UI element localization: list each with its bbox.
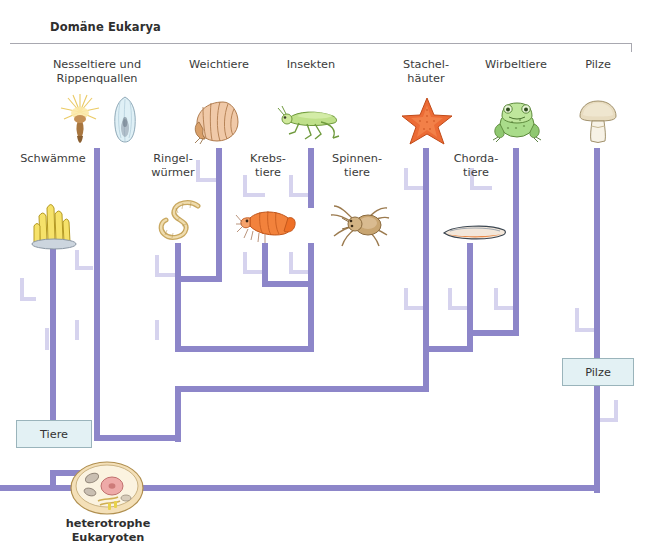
stem-deuterostomia bbox=[423, 346, 429, 388]
branch-nesseltiere bbox=[94, 148, 100, 441]
branch-shadow bbox=[45, 328, 49, 350]
comb-jelly-icon bbox=[112, 96, 138, 144]
lancelet-icon bbox=[442, 222, 508, 244]
stem-lophotrochozoa bbox=[175, 276, 181, 348]
join-stachel-chordata bbox=[423, 346, 473, 352]
join-ringel-weich bbox=[175, 276, 222, 282]
taxon-label-spinnentiere: Spinnen- tiere bbox=[312, 152, 402, 180]
branch-shadow bbox=[75, 266, 93, 270]
frog-icon bbox=[492, 98, 542, 142]
jellyfish-icon bbox=[58, 92, 102, 144]
starfish-icon bbox=[400, 96, 454, 146]
sponge-icon bbox=[28, 198, 80, 250]
taxon-label-pilze: Pilze bbox=[558, 58, 638, 72]
node-label-pilze: Pilze bbox=[585, 366, 611, 379]
branch-shadow bbox=[470, 186, 492, 190]
mollusc-icon bbox=[193, 98, 243, 144]
branch-pilze bbox=[594, 148, 600, 493]
join-krebs-insekten bbox=[262, 281, 314, 287]
taxon-label-schwaemme: Schwämme bbox=[0, 152, 108, 166]
branch-spinnentiere bbox=[308, 243, 314, 348]
node-box-tiere[interactable]: Tiere bbox=[16, 420, 92, 448]
branch-shadow bbox=[155, 273, 177, 277]
branch-schwaemme bbox=[50, 243, 56, 436]
branch-shadow bbox=[243, 193, 265, 197]
annelid-worm-icon bbox=[150, 198, 206, 250]
taxon-label-chordatiere: Chorda- tiere bbox=[431, 152, 521, 180]
stem-bilateria bbox=[175, 386, 181, 442]
domain-rule bbox=[10, 43, 632, 44]
join-lopho-ecdyso bbox=[175, 346, 314, 352]
mushroom-icon bbox=[578, 96, 618, 144]
root-caption: heterotrophe Eukaryoten bbox=[28, 517, 188, 545]
branch-shadow bbox=[155, 320, 159, 340]
branch-shadow bbox=[600, 418, 618, 422]
taxon-label-insekten: Insekten bbox=[256, 58, 366, 72]
eukaryotic-cell-icon bbox=[68, 460, 146, 516]
taxon-label-wirbeltiere: Wirbeltiere bbox=[461, 58, 571, 72]
taxon-label-ringelwuermer: Ringel- würmer bbox=[128, 152, 218, 180]
branch-shadow bbox=[20, 297, 36, 301]
taxon-label-nesseltiere: Nesseltiere und Rippenquallen bbox=[12, 58, 182, 86]
node-label-tiere: Tiere bbox=[40, 428, 68, 441]
spider-icon bbox=[330, 198, 390, 250]
grasshopper-icon bbox=[277, 98, 343, 140]
branch-chordatiere bbox=[467, 243, 473, 335]
node-box-pilze[interactable]: Pilze bbox=[562, 358, 634, 386]
branch-shadow bbox=[75, 320, 79, 340]
join-protostomia-deuterostomia bbox=[175, 386, 429, 392]
taxon-label-krebstiere: Krebs- tiere bbox=[228, 152, 308, 180]
domain-title: Domäne Eukarya bbox=[50, 20, 161, 34]
phylogenetic-tree-diagram: Domäne Eukarya bbox=[0, 0, 666, 558]
branch-stachelhaeuter bbox=[423, 148, 429, 350]
join-nesseltiere-bilateria bbox=[94, 435, 181, 441]
join-chorda-wirbel bbox=[467, 330, 519, 336]
shrimp-icon bbox=[236, 200, 298, 248]
